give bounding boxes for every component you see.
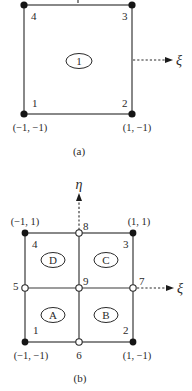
coord-top-left: (−1, 1): [11, 216, 40, 228]
node-4-label: 4: [32, 238, 38, 250]
eta-arrow-icon: [76, 193, 82, 201]
xi-arrow-icon: [166, 285, 174, 291]
xi-axis-label: ξ: [177, 281, 183, 296]
node-2-label: 2: [123, 324, 129, 336]
node-3-label: 3: [123, 238, 129, 250]
node-3-label: 3: [122, 10, 128, 22]
node-4: [20, 1, 27, 8]
caption-a: (a): [73, 145, 86, 158]
node-5-label: 5: [13, 280, 19, 292]
element-label: 1: [76, 55, 82, 67]
coord-bottom-right: (1, −1): [123, 350, 152, 362]
node-7-label: 7: [139, 275, 145, 287]
eta-axis-label: η: [76, 177, 83, 192]
subelement-c-label: C: [102, 254, 109, 266]
node-2: [130, 339, 137, 346]
caption-b: (b): [74, 372, 87, 385]
xi-arrow-icon: [165, 57, 173, 63]
node-3: [128, 1, 135, 8]
coord-bottom-right: (1, −1): [123, 122, 152, 134]
subelement-b-label: B: [102, 309, 109, 321]
node-1-label: 1: [32, 97, 38, 109]
node-2-label: 2: [122, 97, 128, 109]
xi-axis-label: ξ: [176, 53, 182, 68]
node-9: [76, 285, 82, 291]
node-4-label: 4: [31, 10, 37, 22]
node-1: [20, 110, 27, 117]
figure-b: η ξ D C A B 4 3 1 2 5: [11, 177, 183, 385]
subelement-d-label: D: [49, 254, 57, 266]
node-4: [22, 230, 29, 237]
coord-bottom-left: (−1, −1): [14, 350, 49, 362]
node-8-label: 8: [83, 220, 89, 232]
node-3: [130, 230, 137, 237]
finite-element-diagram: ξ 1 4 3 1 2 (−1, −1) (1, −1) (a) η ξ: [0, 0, 192, 391]
node-9-label: 9: [83, 275, 89, 287]
node-2: [128, 110, 135, 117]
node-6-label: 6: [76, 349, 82, 361]
node-7: [130, 285, 136, 291]
subelement-a-label: A: [49, 309, 57, 321]
node-1-label: 1: [33, 324, 39, 336]
figure-a: ξ 1 4 3 1 2 (−1, −1) (1, −1) (a): [13, 0, 182, 158]
node-6: [76, 339, 82, 345]
node-8: [76, 230, 82, 236]
coord-top-right: (1, 1): [128, 216, 151, 228]
node-1: [22, 339, 29, 346]
node-5: [22, 285, 28, 291]
coord-bottom-left: (−1, −1): [13, 122, 48, 134]
